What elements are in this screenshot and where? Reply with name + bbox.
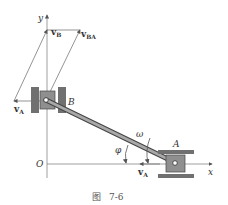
figure-caption: 图7-6 [92,192,124,202]
vBA-vector [50,30,80,92]
guide-b-left [31,87,39,113]
pin-b [44,98,49,103]
origin-label: O [36,159,44,169]
mechanism-diagram: y x O vB vBA vA B A vA ω φ 图7-6 [0,0,228,205]
vA-bottom-label: vA [137,167,148,178]
guide-a-bottom [158,174,194,178]
guide-a-top [158,150,194,154]
vA-left-label: vA [13,104,24,115]
pin-a [173,161,178,166]
vB-label: vB [50,27,61,38]
point-b-label: B [67,97,75,107]
x-axis-label: x [208,167,213,177]
vA-to-vB-line [14,30,47,101]
omega-label: ω [136,129,144,139]
point-a-label: A [172,139,180,149]
phi-arc-icon [125,145,128,163]
y-axis-label: y [37,13,44,23]
phi-label: φ [115,145,122,155]
vBA-label: vBA [80,29,96,40]
